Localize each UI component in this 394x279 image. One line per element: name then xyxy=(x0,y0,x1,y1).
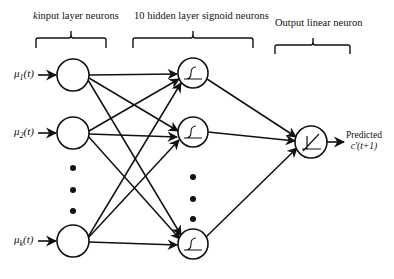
hidden-neurons xyxy=(178,58,208,259)
neural-network-diagram: kinput layer neurons 10 hidden layer sig… xyxy=(0,0,394,279)
sigmoid-icon xyxy=(184,67,202,250)
input-layer-brace xyxy=(36,31,106,48)
input-ellipsis-dots xyxy=(70,165,76,214)
output-label-line2: c'(t+1) xyxy=(346,141,382,152)
hidden-output-connections xyxy=(206,79,297,237)
output-layer-brace xyxy=(275,38,350,54)
hidden-ellipsis-dots xyxy=(190,174,196,222)
network-graphic xyxy=(0,0,394,279)
input-neuron-k xyxy=(57,225,89,257)
input-label-k: μk(t) xyxy=(14,233,33,248)
hidden-neuron-1 xyxy=(178,58,208,88)
input-neuron-1 xyxy=(57,59,89,91)
input-neurons xyxy=(57,59,89,257)
hidden-neuron-10 xyxy=(178,229,208,259)
output-label-line1: Predicted xyxy=(346,130,382,141)
hidden-neuron-2 xyxy=(178,117,208,147)
input-neuron-2 xyxy=(57,117,89,149)
output-layer-title: Output linear neuron xyxy=(275,17,362,28)
hidden-layer-brace xyxy=(133,31,253,48)
input-label-1: μ1(t) xyxy=(14,67,34,82)
hidden-layer-title: 10 hidden layer signoid neurons xyxy=(134,10,269,21)
input-label-2: μ2(t) xyxy=(14,125,34,140)
output-label: Predicted c'(t+1) xyxy=(346,130,382,152)
input-arrows xyxy=(38,75,56,241)
input-layer-title: kinput layer neurons xyxy=(33,10,119,21)
input-hidden-connections xyxy=(88,74,181,245)
